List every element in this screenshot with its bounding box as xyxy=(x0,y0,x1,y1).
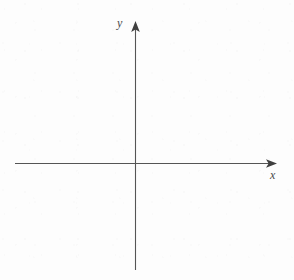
y-axis-label: y xyxy=(117,17,122,29)
diagram-canvas: y x xyxy=(0,0,294,280)
coordinate-axes-graphic xyxy=(0,0,294,280)
x-axis-label: x xyxy=(270,169,275,181)
